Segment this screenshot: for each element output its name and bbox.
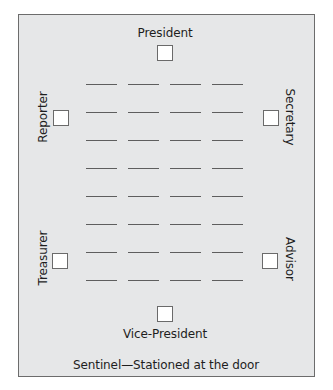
member-seat-line: [212, 168, 243, 169]
member-seat-line: [128, 280, 159, 281]
member-seat-line: [128, 224, 159, 225]
advisor-label: Advisor: [283, 237, 297, 281]
member-seat-line: [86, 280, 117, 281]
sentinel-note: Sentinel—Stationed at the door: [73, 358, 259, 372]
treasurer-seat-box: [52, 253, 68, 269]
member-seat-line: [86, 84, 117, 85]
member-seat-line: [128, 112, 159, 113]
member-seat-line: [170, 168, 201, 169]
president-label: President: [137, 26, 192, 40]
member-seat-line: [170, 280, 201, 281]
member-seat-line: [128, 196, 159, 197]
member-seat-line: [212, 84, 243, 85]
member-seat-line: [86, 168, 117, 169]
member-seat-line: [86, 224, 117, 225]
member-seat-line: [128, 84, 159, 85]
member-seat-line: [128, 140, 159, 141]
room-frame: [18, 14, 315, 377]
member-seat-line: [170, 84, 201, 85]
secretary-seat-box: [263, 110, 279, 126]
member-seat-line: [170, 196, 201, 197]
member-seat-line: [212, 112, 243, 113]
member-seat-line: [170, 112, 201, 113]
member-seat-line: [170, 140, 201, 141]
member-seat-line: [128, 252, 159, 253]
reporter-seat-box: [53, 110, 69, 126]
treasurer-label: Treasurer: [36, 231, 50, 286]
member-seat-line: [170, 224, 201, 225]
advisor-seat-box: [262, 253, 278, 269]
member-seat-line: [128, 168, 159, 169]
president-seat-box: [157, 45, 173, 61]
reporter-label: Reporter: [36, 91, 50, 142]
member-seat-line: [86, 140, 117, 141]
member-seat-line: [86, 196, 117, 197]
member-seat-line: [170, 252, 201, 253]
vice-president-label: Vice-President: [123, 327, 207, 341]
member-seat-line: [86, 112, 117, 113]
member-seat-line: [212, 224, 243, 225]
member-seat-line: [212, 140, 243, 141]
secretary-label: Secretary: [283, 89, 297, 146]
member-seat-line: [212, 252, 243, 253]
member-seat-line: [86, 252, 117, 253]
vice-president-seat-box: [157, 306, 173, 322]
member-seat-line: [212, 196, 243, 197]
member-seat-line: [212, 280, 243, 281]
